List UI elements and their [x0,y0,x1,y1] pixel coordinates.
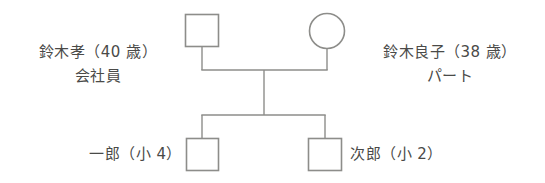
father-square-symbol [186,15,219,47]
father-name-age-text: 鈴木孝（40 歳） [8,40,188,64]
child-first-label-block: 一郎（小 4） [42,142,182,166]
child-second-label-block: 次郎（小 2） [350,142,500,166]
mother-circle-symbol [310,14,345,49]
genogram-canvas: 鈴木孝（40 歳） 会社員 鈴木良子（38 歳） パート 一郎（小 4） 次郎（… [0,0,545,183]
child-first-name-grade-text: 一郎（小 4） [42,142,182,166]
father-label-block: 鈴木孝（40 歳） 会社員 [8,40,188,88]
mother-name-age-text: 鈴木良子（38 歳） [360,40,540,64]
child-second-square-symbol [309,139,342,171]
mother-label-block: 鈴木良子（38 歳） パート [360,40,540,88]
mother-occupation-text: パート [360,64,540,88]
child-second-name-grade-text: 次郎（小 2） [350,142,500,166]
father-occupation-text: 会社員 [8,64,188,88]
child-first-square-symbol [187,139,219,171]
